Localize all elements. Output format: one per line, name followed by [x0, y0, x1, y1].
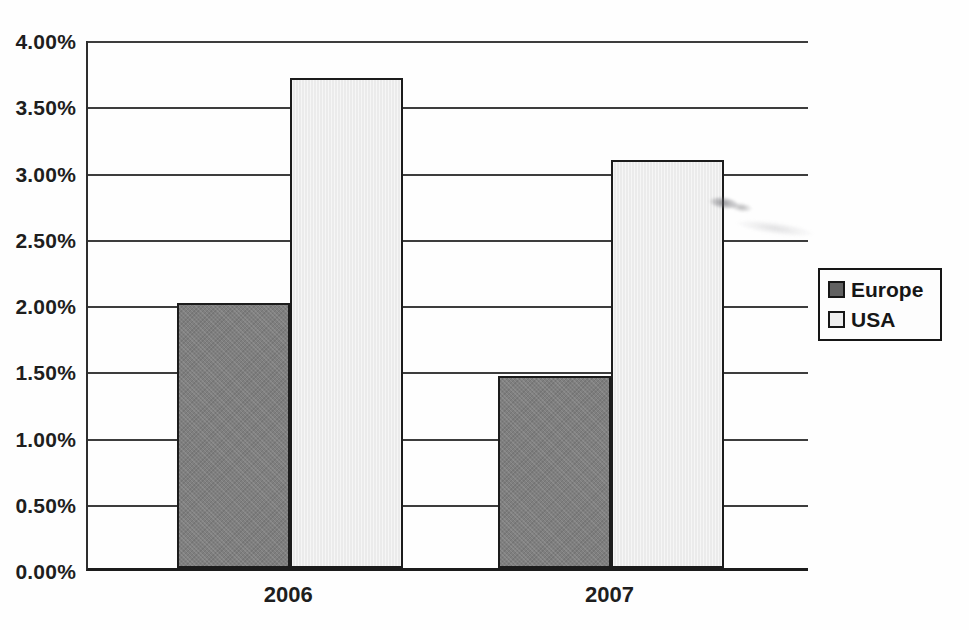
bar-europe-2006 — [177, 303, 290, 568]
x-category-label: 2006 — [213, 582, 363, 608]
y-tick-label: 2.50% — [15, 228, 76, 254]
bar-europe-2007 — [498, 376, 611, 568]
y-tick-label: 1.00% — [15, 427, 76, 453]
y-axis-labels: 0.00%0.50%1.00%1.50%2.00%2.50%3.00%3.50%… — [0, 41, 76, 571]
x-category-label: 2007 — [534, 582, 684, 608]
legend-label-europe: Europe — [851, 279, 923, 300]
plot-area — [86, 41, 808, 571]
y-tick-label: 0.50% — [15, 493, 76, 519]
europe-swatch-icon — [828, 281, 845, 298]
bar-chart-figure: 0.00%0.50%1.00%1.50%2.00%2.50%3.00%3.50%… — [0, 0, 969, 630]
legend-item-usa: USA — [828, 309, 932, 330]
legend: Europe USA — [818, 268, 942, 341]
y-tick-label: 3.50% — [15, 95, 76, 121]
legend-label-usa: USA — [851, 309, 895, 330]
y-tick-label: 1.50% — [15, 360, 76, 386]
usa-swatch-icon — [828, 311, 845, 328]
y-tick-label: 4.00% — [15, 29, 76, 55]
gridline — [88, 41, 808, 43]
x-axis-labels: 20062007 — [86, 582, 808, 614]
y-tick-label: 3.00% — [15, 162, 76, 188]
bar-usa-2006 — [290, 78, 403, 568]
bar-usa-2007 — [611, 160, 724, 568]
gridline — [88, 107, 808, 109]
legend-item-europe: Europe — [828, 279, 932, 300]
y-tick-label: 0.00% — [15, 559, 76, 585]
y-tick-label: 2.00% — [15, 294, 76, 320]
